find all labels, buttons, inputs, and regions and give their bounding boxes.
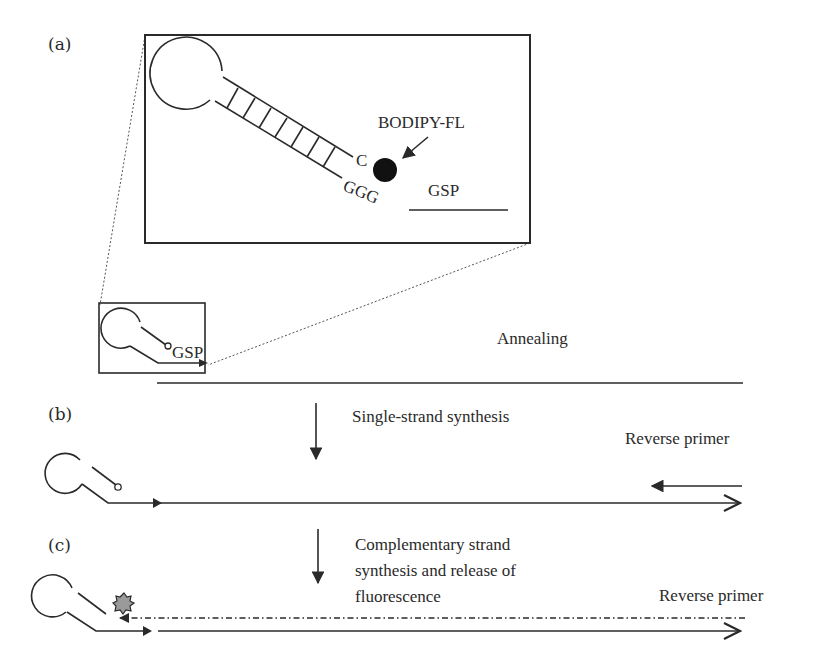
single-strand-synthesis-label: Single-strand synthesis	[352, 407, 509, 426]
reverse-primer-label-c: Reverse primer	[659, 586, 764, 605]
panel-a: (a) C GGG BOD	[48, 34, 743, 383]
quencher-dot-b-icon	[115, 484, 121, 490]
inset-frame	[145, 35, 530, 243]
released-fluorescence-icon	[113, 593, 134, 614]
panel-b-label: (b)	[48, 404, 72, 424]
inset-probe-detail: C GGG BODIPY-FL GSP	[145, 35, 530, 243]
small-probe-box: GSP	[99, 303, 208, 373]
probe-loop-b-icon	[45, 453, 82, 493]
complementary-line-1: Complementary strand	[355, 535, 511, 554]
probe-loop-c-icon	[32, 575, 72, 617]
bodipy-fluorophore-icon	[373, 158, 397, 182]
primer-arrowhead-c-icon	[143, 626, 152, 636]
probe-stem-lower-c	[67, 612, 148, 631]
panel-a-label: (a)	[48, 34, 71, 54]
panel-c: (c) Complementary strand synthesis and r…	[32, 529, 764, 636]
complementary-line-3: fluorescence	[355, 587, 441, 606]
small-hairpin-loop-icon	[101, 308, 140, 348]
zoom-callout-line-right	[208, 243, 530, 365]
zoom-callout-line-left	[100, 36, 145, 305]
panel-c-label: (c)	[48, 535, 71, 555]
reverse-primer-label-b: Reverse primer	[625, 429, 730, 448]
fluorophore-label: BODIPY-FL	[378, 113, 465, 132]
complementary-line-2: synthesis and release of	[355, 561, 516, 580]
base-c-label: C	[356, 151, 367, 170]
small-quencher-dot-icon	[165, 343, 171, 349]
probe-stem-upper-c	[78, 593, 106, 614]
diagram-canvas: (a) C GGG BOD	[0, 0, 831, 668]
small-stem-upper	[141, 327, 166, 345]
panel-b: (b) Single-strand synthesis Reverse prim…	[45, 403, 742, 508]
small-probe-label: GSP	[172, 343, 203, 362]
annealing-label: Annealing	[497, 329, 568, 348]
probe-stem-upper-b	[92, 467, 116, 485]
inset-primer-label: GSP	[428, 181, 459, 200]
